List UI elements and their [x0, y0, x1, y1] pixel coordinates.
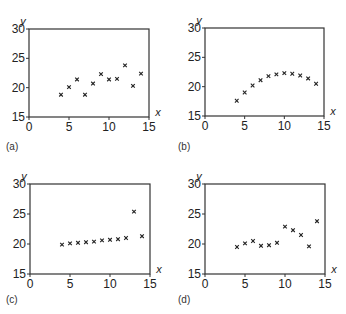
data-point-x-marker-icon [108, 238, 112, 242]
data-point-x-marker-icon [251, 84, 255, 88]
data-point-x-marker-icon [123, 64, 127, 68]
x-tick-label: 10 [103, 277, 117, 291]
x-tick-label: 0 [202, 119, 209, 133]
y-axis-label: y [19, 15, 27, 27]
y-axis-label: y [20, 170, 28, 182]
x-tick-label: 10 [278, 277, 292, 291]
y-tick-label: 15 [13, 267, 27, 281]
data-point-x-marker-icon [283, 71, 287, 75]
data-point-x-marker-icon [99, 72, 103, 76]
data-point-x-marker-icon [84, 240, 88, 244]
data-point-x-marker-icon [314, 82, 318, 86]
x-tick-label: 5 [241, 119, 248, 133]
scatter-panel-d: 15202530051015yx(d) [178, 170, 337, 305]
data-point-x-marker-icon [131, 84, 135, 88]
data-point-x-marker-icon [315, 219, 319, 223]
y-tick-label: 20 [188, 237, 202, 251]
y-tick-label: 15 [188, 109, 202, 123]
data-point-x-marker-icon [243, 242, 247, 246]
y-tick-label: 25 [13, 207, 27, 221]
plot-frame [205, 184, 325, 274]
data-point-x-marker-icon [259, 78, 263, 82]
data-point-x-marker-icon [83, 93, 87, 97]
data-point-x-marker-icon [267, 74, 271, 78]
data-point-x-marker-icon [283, 225, 287, 229]
data-point-x-marker-icon [299, 233, 303, 237]
data-point-x-marker-icon [76, 241, 80, 245]
x-tick-label: 5 [242, 277, 249, 291]
y-axis-label: y [195, 170, 203, 182]
x-tick-label: 10 [278, 119, 292, 133]
data-point-x-marker-icon [235, 245, 239, 249]
y-tick-label: 25 [188, 50, 202, 64]
data-point-x-marker-icon [124, 236, 128, 240]
data-point-x-marker-icon [92, 240, 96, 244]
y-tick-label: 20 [12, 81, 26, 95]
data-point-x-marker-icon [267, 243, 271, 247]
x-tick-label: 0 [202, 277, 209, 291]
x-axis-label: x [154, 106, 161, 118]
x-axis-label: x [329, 105, 336, 117]
data-point-x-marker-icon [259, 244, 263, 248]
x-axis-label: x [155, 263, 162, 275]
data-point-x-marker-icon [100, 239, 104, 243]
data-point-x-marker-icon [140, 234, 144, 238]
data-point-x-marker-icon [116, 237, 120, 241]
data-point-x-marker-icon [115, 77, 119, 81]
y-tick-label: 15 [188, 267, 202, 281]
data-point-x-marker-icon [275, 241, 279, 245]
y-tick-label: 15 [12, 110, 26, 124]
x-tick-label: 15 [317, 119, 331, 133]
data-point-x-marker-icon [68, 242, 72, 246]
data-point-x-marker-icon [91, 82, 95, 86]
plot-frame [30, 184, 150, 274]
x-tick-label: 10 [102, 120, 116, 134]
data-point-x-marker-icon [275, 73, 279, 77]
data-point-x-marker-icon [251, 239, 255, 243]
panel-label: (a) [6, 141, 18, 152]
y-tick-label: 20 [188, 80, 202, 94]
y-tick-label: 20 [13, 237, 27, 251]
scatter-panel-c: 15202530051015yx(c) [6, 170, 162, 305]
data-point-x-marker-icon [243, 91, 247, 95]
panel-label: (b) [178, 141, 190, 152]
data-point-x-marker-icon [139, 72, 143, 76]
data-point-x-marker-icon [107, 78, 111, 82]
data-point-x-marker-icon [75, 78, 79, 82]
data-point-x-marker-icon [298, 74, 302, 78]
x-tick-label: 15 [143, 277, 157, 291]
x-axis-label: x [330, 263, 337, 275]
plot-frame [29, 29, 149, 117]
data-point-x-marker-icon [67, 85, 71, 89]
data-point-x-marker-icon [60, 243, 64, 247]
y-tick-label: 25 [188, 207, 202, 221]
x-tick-label: 15 [318, 277, 332, 291]
data-point-x-marker-icon [59, 93, 63, 97]
data-point-x-marker-icon [290, 72, 294, 76]
data-point-x-marker-icon [132, 210, 136, 214]
x-tick-label: 0 [27, 277, 34, 291]
x-tick-label: 15 [142, 120, 156, 134]
data-point-x-marker-icon [291, 228, 295, 232]
scatter-quartet-figure: 15202530051015yx(a) 15202530051015yx(b) … [0, 0, 346, 314]
data-point-x-marker-icon [235, 99, 239, 103]
data-point-x-marker-icon [307, 245, 311, 249]
x-tick-label: 5 [67, 277, 74, 291]
plot-frame [205, 28, 324, 116]
scatter-panel-b: 15202530051015yx(b) [178, 14, 336, 152]
x-tick-label: 0 [26, 120, 33, 134]
panel-label: (c) [6, 294, 18, 305]
panel-label: (d) [178, 294, 190, 305]
scatter-panel-a: 15202530051015yx(a) [6, 15, 161, 152]
x-tick-label: 5 [66, 120, 73, 134]
y-tick-label: 25 [12, 51, 26, 65]
y-axis-label: y [195, 14, 203, 26]
data-point-x-marker-icon [306, 77, 310, 81]
